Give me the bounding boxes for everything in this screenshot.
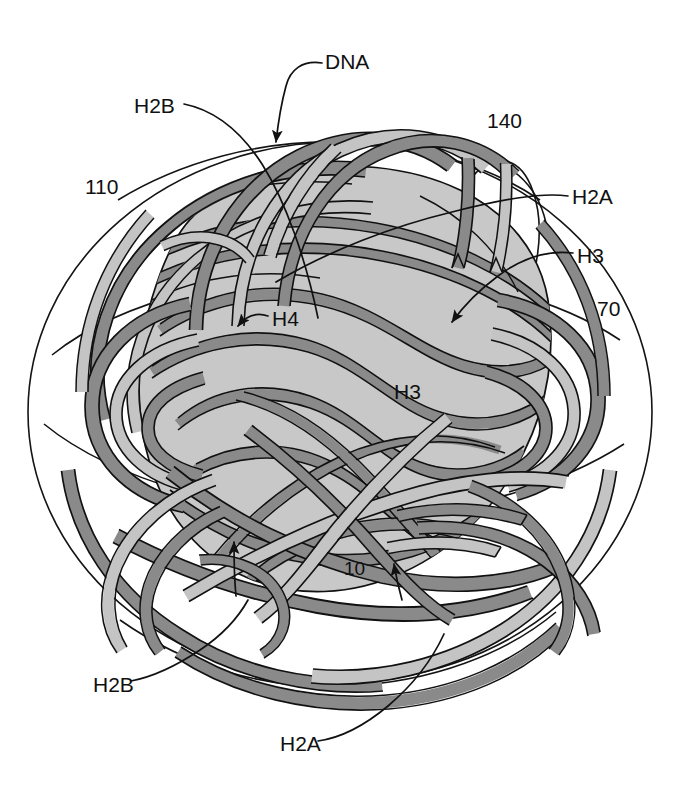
- label-140: 140: [487, 109, 522, 132]
- label-h3-right: H3: [577, 244, 604, 267]
- label-110: 110: [85, 175, 118, 198]
- label-h2a-right: H2A: [572, 185, 613, 208]
- figure-canvas: DNA H2B 140 110 H2A H3 70 H4 H3 10 H2B H…: [0, 0, 689, 795]
- label-h2b-bottom: H2B: [93, 673, 134, 696]
- label-dna: DNA: [325, 50, 369, 73]
- label-h2a-bottom: H2A: [280, 732, 321, 755]
- label-h3-center: H3: [394, 380, 421, 403]
- nucleosome-diagram: DNA H2B 140 110 H2A H3 70 H4 H3 10 H2B H…: [0, 0, 689, 795]
- label-10: 10: [344, 558, 365, 579]
- label-h4: H4: [272, 307, 299, 330]
- label-h2b-top: H2B: [134, 94, 175, 117]
- label-70: 70: [597, 297, 620, 320]
